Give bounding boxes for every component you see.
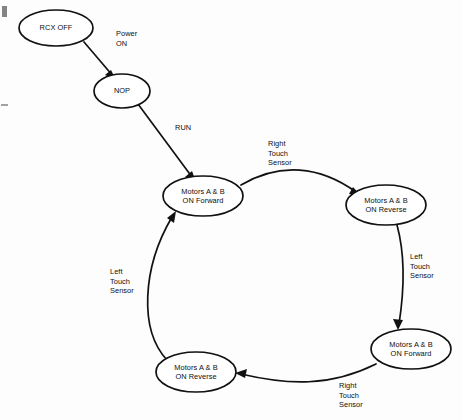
node-rcx-off[interactable] <box>19 10 93 46</box>
edge-power-on <box>84 42 116 80</box>
node-center-forward[interactable] <box>163 176 243 216</box>
edge-right-touch-top <box>241 170 361 196</box>
edge-left-touch-right <box>393 225 403 330</box>
node-nop[interactable] <box>94 74 150 108</box>
edge-left-touch-left-arrowhead <box>167 211 176 223</box>
edge-right-touch-bottom-line <box>241 364 376 382</box>
node-bottom-left-reverse[interactable] <box>156 352 236 392</box>
edge-power-on-line <box>84 42 113 76</box>
edge-left-touch-right-arrowhead <box>393 319 403 330</box>
node-right-reverse[interactable] <box>346 185 426 225</box>
edge-right-touch-bottom <box>235 364 376 382</box>
edge-run <box>138 104 196 182</box>
edge-left-touch-left <box>148 211 176 360</box>
state-diagram-graphics <box>0 0 463 420</box>
node-bottom-right-forward[interactable] <box>371 329 451 369</box>
edge-left-touch-left-line <box>148 217 172 360</box>
diagram-canvas: RCX OFF NOP Motors A & B ON Forward Moto… <box>0 0 463 420</box>
edge-run-line <box>138 104 192 177</box>
edge-right-touch-bottom-arrowhead <box>235 369 247 378</box>
edge-right-touch-top-line <box>241 170 356 192</box>
edge-left-touch-right-line <box>397 225 403 324</box>
